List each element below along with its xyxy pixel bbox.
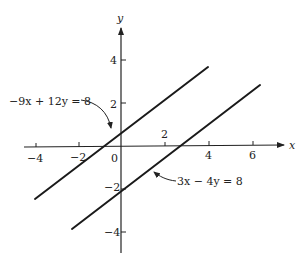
y-tick-label: 2 [110,98,117,111]
x-axis-label: x [289,139,296,152]
x-tick-label: 6 [249,149,256,162]
y-tick-label: −2 [104,181,120,194]
line-3x-minus-4y-eq-8 [72,85,260,229]
equation-label-line-1: −9x + 12y = 8 [9,95,91,108]
x-axis [24,145,284,147]
x-tick-label: 4 [205,149,212,162]
coordinate-plane: x y −4 −2 0 2 4 6 4 2 −2 −4 −9x + 12y = … [0,0,308,267]
pointer-arrow-line-2 [154,172,176,181]
y-tick-label: −4 [104,226,120,239]
x-tick-label: 2 [161,128,168,141]
equation-label-line-2: 3x − 4y = 8 [177,175,243,188]
x-tick-label: 0 [111,152,118,165]
x-tick-label: −4 [27,152,43,165]
y-tick-label: 4 [110,54,117,67]
y-axis-label: y [116,12,124,25]
